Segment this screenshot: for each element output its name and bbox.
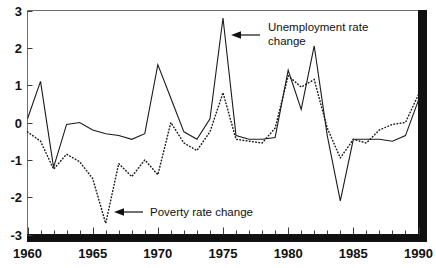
x-tick-label: 1990: [404, 246, 433, 261]
x-tick-label: 1960: [13, 246, 42, 261]
y-tick-label: 0: [15, 116, 22, 131]
chart-background: [0, 0, 436, 268]
x-tick-label: 1980: [274, 246, 303, 261]
y-tick-label: 2: [15, 41, 22, 56]
x-tick-label: 1975: [209, 246, 238, 261]
unemployment-annotation-line1: Unemployment rate: [268, 21, 368, 33]
x-tick-label: 1970: [143, 246, 172, 261]
y-tick-label: -3: [10, 228, 22, 243]
poverty-annotation-line1: Poverty rate change: [150, 206, 253, 218]
x-tick-label: 1965: [78, 246, 107, 261]
y-tick-label: 3: [15, 4, 22, 19]
plot-bottom-heavy-edge: [27, 234, 427, 242]
y-tick-label: -1: [10, 153, 22, 168]
line-chart: 3210-1-2-3 1960196519701975198019851990 …: [0, 0, 436, 268]
x-tick-label: 1985: [339, 246, 368, 261]
y-tick-label: -2: [10, 190, 22, 205]
y-tick-label: 1: [15, 78, 22, 93]
unemployment-annotation-line2: change: [268, 35, 306, 47]
plot-right-heavy-edge: [418, 10, 427, 235]
chart-figure: 3210-1-2-3 1960196519701975198019851990 …: [0, 0, 436, 268]
